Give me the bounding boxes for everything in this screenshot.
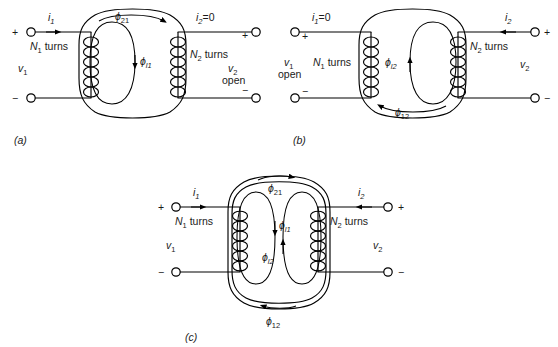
flux-leakage-loop-a: [90, 22, 135, 104]
transformer-flux-figure: + − + − i1 i2=0 N1 turns N2 turns v1 v2 …: [0, 0, 558, 347]
current-label-i2-c: i2: [358, 186, 365, 201]
terminal-left-bottom-a[interactable]: [27, 94, 35, 102]
panel-b: + − + − i1=0 i2 N1 turns N2 turns v1 ope…: [278, 9, 550, 146]
sign-right-top-c: +: [398, 201, 404, 213]
voltage-label-v2-c: v2: [373, 239, 382, 254]
flux-label-mutual-bottom-c: ϕ12: [266, 315, 280, 330]
flux-label-mutual-b: ϕ12: [395, 106, 409, 121]
terminal-right-bottom-a[interactable]: [252, 94, 260, 102]
terminal-right-top-c[interactable]: [384, 203, 392, 211]
terminal-left-top-c[interactable]: [172, 203, 180, 211]
terminal-left-bottom-c[interactable]: [172, 268, 180, 276]
sign-left-bottom-c: −: [158, 266, 164, 278]
terminal-right-top-b[interactable]: [531, 28, 539, 36]
flux-label-leakage-b: ϕl2: [385, 56, 398, 71]
coil-secondary-a: [171, 32, 186, 98]
terminal-right-bottom-c[interactable]: [384, 268, 392, 276]
coil-secondary-c: [311, 207, 326, 272]
core-outline-a: [79, 9, 186, 118]
sign-left-top-c: +: [158, 201, 164, 213]
terminal-left-top-b[interactable]: [291, 28, 299, 36]
terminal-left-bottom-b[interactable]: [291, 94, 299, 102]
terminal-left-top-a[interactable]: [27, 28, 35, 36]
flux-label-leakage-a: ϕl1: [140, 55, 152, 70]
terminal-right-bottom-b[interactable]: [531, 94, 539, 102]
turns-label-n2-a: N2 turns: [190, 48, 228, 63]
current-label-i1-c: i1: [193, 186, 200, 201]
turns-label-n1-c: N1 turns: [175, 215, 213, 230]
panel-c: + − + − i1 i2 N1 turns N2 turns v1 v2 ϕ2…: [158, 176, 404, 343]
panel-caption-c: (c): [185, 331, 197, 343]
voltage-note-v2-a: open: [222, 74, 246, 86]
flux-label-leakage-l1-c: ϕl1: [279, 219, 291, 234]
sign-left-bottom-a: −: [12, 92, 18, 104]
current-label-i2-b: i2: [505, 11, 512, 26]
panel-caption-b: (b): [293, 134, 306, 146]
voltage-label-v1-c: v1: [166, 239, 175, 254]
flux-leakage-loop-b: [410, 22, 456, 104]
voltage-label-v2-b: v2: [520, 58, 529, 73]
turns-label-n2-b: N2 turns: [470, 40, 508, 55]
voltage-note-v1-b: open: [278, 68, 302, 80]
turns-label-n2-c: N2 turns: [330, 215, 368, 230]
current-label-i1-a: i1: [48, 11, 55, 26]
sign-right-bottom-b: −: [544, 92, 550, 104]
coil-secondary-b: [451, 32, 466, 98]
turns-label-n1-a: N1 turns: [30, 40, 68, 55]
terminal-right-top-a[interactable]: [252, 28, 260, 36]
flux-mutual-path-a: [99, 15, 164, 21]
panel-a: + − + − i1 i2=0 N1 turns N2 turns v1 v2 …: [12, 9, 260, 146]
flux-label-mutual-top-c: ϕ21: [268, 182, 282, 197]
flux-mutual-bottom-arrow-c: [263, 306, 296, 308]
turns-label-n1-b: N1 turns: [313, 56, 351, 71]
coil-primary-a: [84, 32, 99, 98]
sign-left-top-b: +: [302, 30, 308, 42]
core-outline-b: [359, 9, 466, 118]
sign-right-top-b: +: [544, 26, 550, 38]
flux-label-leakage-l2-c: ϕl2: [262, 251, 275, 266]
flux-mutual-path-b: [380, 106, 446, 112]
coil-primary-b: [364, 32, 379, 98]
sign-left-bottom-b: −: [302, 85, 308, 97]
panel-caption-a: (a): [14, 134, 27, 146]
current-label-i1-b: i1=0: [312, 11, 331, 26]
sign-left-top-a: +: [12, 26, 18, 38]
voltage-label-v1-a: v1: [18, 62, 27, 77]
sign-right-bottom-c: −: [398, 266, 404, 278]
coil-primary-c: [233, 207, 248, 272]
current-label-i2-a: i2=0: [196, 11, 215, 26]
sign-right-top-a: +: [242, 29, 248, 41]
